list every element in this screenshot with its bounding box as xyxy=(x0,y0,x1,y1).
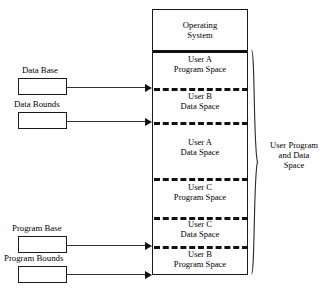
register-program-bounds-box[interactable] xyxy=(18,266,67,283)
register-data-bounds-box[interactable] xyxy=(18,112,67,129)
register-program-base-label: Program Base xyxy=(12,224,62,233)
boundary-dash-3 xyxy=(154,178,248,181)
register-data-base-label: Data Base xyxy=(22,66,58,75)
region-user-a-program-space: User A Program Space xyxy=(153,55,247,74)
arrowhead-data-base xyxy=(145,84,152,92)
diagram-canvas: Operating System User A Program Space Us… xyxy=(0,0,330,298)
connector-program-bounds xyxy=(67,274,148,275)
arrowhead-program-bounds xyxy=(145,271,152,279)
region-user-b-data-space: User B Data Space xyxy=(153,92,247,111)
region-user-b-program-space: User B Program Space xyxy=(153,250,247,269)
region-user-a-data-space: User A Data Space xyxy=(153,138,247,157)
region-operating-system-label: Operating System xyxy=(153,21,247,40)
register-data-base-box[interactable] xyxy=(18,78,67,95)
connector-data-bounds xyxy=(67,121,148,122)
region-operating-system: Operating System xyxy=(153,10,247,51)
arrowhead-program-base xyxy=(145,242,152,250)
register-program-bounds-label: Program Bounds xyxy=(4,254,63,263)
region-user-c-program-space: User C Program Space xyxy=(153,183,247,202)
register-data-bounds-label: Data Bounds xyxy=(14,100,60,109)
user-space-brace-label: User Program and Data Space xyxy=(260,140,328,170)
register-program-base-box[interactable] xyxy=(18,236,67,253)
connector-data-base xyxy=(67,87,148,88)
arrowhead-data-bounds xyxy=(145,118,152,126)
memory-column: Operating System User A Program Space Us… xyxy=(152,9,248,275)
user-space-brace xyxy=(250,49,259,275)
connector-program-base xyxy=(67,245,148,246)
boundary-dash-2 xyxy=(154,122,248,125)
region-user-c-data-space: User C Data Space xyxy=(153,220,247,239)
os-user-divider xyxy=(153,50,247,53)
